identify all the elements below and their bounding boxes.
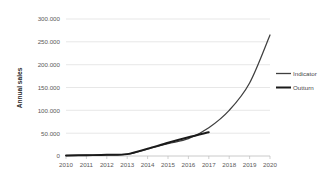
series-line-outturn	[66, 132, 209, 155]
y-tick-label-150000: 150.000	[38, 84, 61, 91]
gridlines	[66, 19, 270, 133]
y-tick-label-250000: 250.000	[38, 38, 61, 45]
y-tick-label-100000: 100.000	[38, 107, 61, 114]
legend: Indicator Outturn	[276, 70, 317, 91]
x-tick-label-2016: 2016	[182, 161, 196, 168]
x-axis-ticks	[66, 156, 270, 159]
y-tick-label-300000: 300.000	[38, 15, 61, 22]
x-tick-label-2015: 2015	[161, 161, 175, 168]
series-line-indicator	[66, 35, 270, 156]
x-axis-tick-labels: 2010 2011 2012 2013 2014 2015 2016 2017 …	[59, 161, 277, 168]
x-tick-label-2018: 2018	[222, 161, 236, 168]
x-tick-label-2020: 2020	[263, 161, 277, 168]
line-chart: 300.000 250.000 200.000 150.000 100.000 …	[0, 0, 333, 179]
x-tick-label-2012: 2012	[100, 161, 114, 168]
y-tick-label-0: 0	[57, 152, 61, 159]
legend-label-outturn: Outturn	[293, 84, 314, 91]
chart-container: 300.000 250.000 200.000 150.000 100.000 …	[0, 0, 333, 179]
y-tick-label-50000: 50.000	[41, 130, 60, 137]
legend-label-indicator: Indicator	[293, 70, 317, 77]
x-tick-label-2013: 2013	[120, 161, 134, 168]
x-tick-label-2010: 2010	[59, 161, 73, 168]
x-tick-label-2014: 2014	[141, 161, 155, 168]
y-axis-title: Annual sales	[16, 67, 23, 108]
y-axis-tick-labels: 300.000 250.000 200.000 150.000 100.000 …	[38, 15, 61, 159]
y-tick-label-200000: 200.000	[38, 61, 61, 68]
x-tick-label-2019: 2019	[243, 161, 257, 168]
x-tick-label-2011: 2011	[80, 161, 94, 168]
x-tick-label-2017: 2017	[202, 161, 216, 168]
